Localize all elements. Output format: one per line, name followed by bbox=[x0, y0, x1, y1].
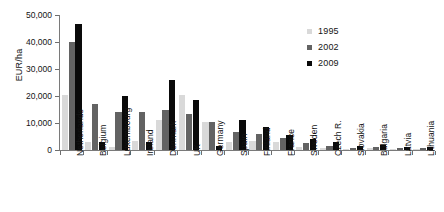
legend-label: 2009 bbox=[318, 59, 339, 68]
legend-label: 1995 bbox=[318, 27, 339, 36]
x-axis-label-germany: Germany bbox=[216, 120, 225, 156]
legend-label: 2002 bbox=[318, 43, 339, 52]
x-axis-label-slovakia: Slovakia bbox=[357, 123, 366, 156]
x-axis-label-sweden: Sweden bbox=[310, 125, 319, 156]
x-axis-label-finland: Finland bbox=[263, 127, 272, 156]
legend-swatch-icon bbox=[307, 61, 312, 66]
legend-swatch-icon bbox=[307, 29, 312, 34]
x-axis-label-lithuania: Lithuania bbox=[427, 121, 436, 156]
x-axis-label-france: France bbox=[287, 129, 296, 156]
bar-chart-figure: EUR/ha 50,00040,00030,00020,00010,0000 N… bbox=[0, 0, 444, 212]
chart-legend: 199520022009 bbox=[307, 24, 377, 72]
legend-item-2009: 2009 bbox=[307, 56, 377, 70]
x-axis-label-denmark: Denmark bbox=[169, 121, 178, 156]
x-axis-label-czech-r: Czech R. bbox=[334, 120, 343, 156]
x-axis-label-luxembourg: Luxembourg bbox=[123, 108, 132, 156]
x-axis-label-bulgaria: Bulgaria bbox=[380, 124, 389, 156]
legend-item-2002: 2002 bbox=[307, 40, 377, 54]
x-axis-label-belgium: Belgium bbox=[99, 125, 108, 156]
x-axis-label-latvia: Latvia bbox=[404, 133, 413, 156]
x-axis-label-uk: UK bbox=[193, 144, 202, 156]
x-axis-label-netherlands: Netherlands bbox=[76, 109, 85, 156]
legend-swatch-icon bbox=[307, 45, 312, 50]
legend-item-1995: 1995 bbox=[307, 24, 377, 38]
x-axis-tick-mark bbox=[60, 151, 61, 155]
x-axis-label-ireland: Ireland bbox=[146, 129, 155, 156]
x-axis-tick-labels: NetherlandsBelgiumLuxembourgIrelandDenma… bbox=[0, 0, 444, 212]
x-axis-label-spain: Spain bbox=[240, 134, 249, 156]
